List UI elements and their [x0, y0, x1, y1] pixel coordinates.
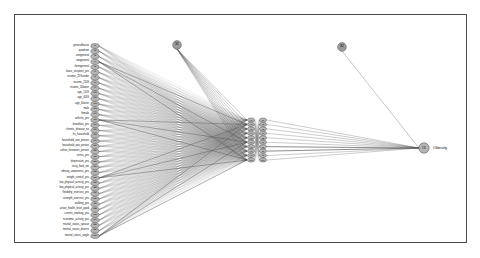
- input-node-i27[interactable]: I27: [91, 182, 99, 184]
- input-label-i5: threegeneral: [74, 66, 89, 69]
- input-node-i18[interactable]: I18: [91, 134, 99, 136]
- input-label-i22: stress_yes: [77, 155, 89, 158]
- input-node-i9[interactable]: I9: [91, 87, 99, 89]
- input-label-i28: low_physical_activity_yes: [59, 187, 89, 190]
- input-label-i26: weight_control_yes: [67, 177, 89, 180]
- output-label: Obesity: [433, 146, 447, 150]
- input-node-i17[interactable]: I17: [91, 129, 99, 131]
- input-node-i15[interactable]: I15: [91, 119, 99, 121]
- hidden2-node-j7[interactable]: J7: [259, 146, 266, 148]
- input-node-i14[interactable]: I14: [91, 113, 99, 115]
- input-node-i31[interactable]: I31: [91, 203, 99, 205]
- hidden1-node-h1[interactable]: H1: [247, 119, 254, 121]
- input-node-i11[interactable]: I11: [91, 97, 99, 99]
- input-node-i10[interactable]: I10: [91, 92, 99, 94]
- input-label-i21: cohort_threeover_person: [60, 150, 89, 153]
- input-label-i35: marital_status_spouse: [63, 224, 89, 227]
- input-node-i25[interactable]: I25: [91, 171, 99, 173]
- input-node-i32[interactable]: I32: [91, 208, 99, 210]
- input-node-i26[interactable]: I26: [91, 177, 99, 179]
- output-node[interactable]: O1: [418, 147, 430, 149]
- input-label-i36: marital_status_divorce: [63, 229, 89, 232]
- input-label-i7: income_25%under: [67, 76, 89, 79]
- input-label-i11: age_4059: [77, 97, 89, 100]
- input-node-i21[interactable]: I21: [91, 150, 99, 152]
- hidden1-node-h2[interactable]: H2: [247, 123, 254, 125]
- input-label-i23: depression_yes: [71, 161, 89, 164]
- input-label-i14: female: [81, 113, 89, 116]
- input-node-i30[interactable]: I30: [91, 198, 99, 200]
- input-node-i1[interactable]: I1: [91, 45, 99, 47]
- input-label-i16: breakfast_yes: [73, 124, 89, 127]
- input-label-i31: walking_yes: [75, 203, 89, 206]
- input-node-i22[interactable]: I22: [91, 156, 99, 158]
- input-label-i20: household_two_person: [62, 145, 89, 148]
- hidden2-node-j5[interactable]: J5: [259, 137, 266, 139]
- hidden1-node-h7[interactable]: H7: [247, 146, 254, 148]
- input-node-i20[interactable]: I20: [91, 145, 99, 147]
- input-node-i7[interactable]: I7: [91, 76, 99, 78]
- hidden1-node-h10[interactable]: H10: [247, 159, 254, 161]
- input-label-i8: income_2549: [73, 82, 89, 85]
- hidden2-node-j1[interactable]: J1: [259, 119, 266, 121]
- input-label-i3: onegeneral: [76, 55, 89, 58]
- hidden2-node-j8[interactable]: J8: [259, 150, 266, 152]
- input-node-i2[interactable]: I2: [91, 50, 99, 52]
- input-node-i8[interactable]: I8: [91, 82, 99, 84]
- input-label-i18: hs_household: [73, 134, 89, 137]
- input-node-i13[interactable]: I13: [91, 108, 99, 110]
- hidden1-node-h4[interactable]: H4: [247, 132, 254, 134]
- input-node-i29[interactable]: I29: [91, 192, 99, 194]
- input-label-i37: marital_status_single: [65, 235, 89, 238]
- input-node-i19[interactable]: I19: [91, 140, 99, 142]
- input-label-i15: arthritis_yes: [75, 118, 89, 121]
- input-label-i34: economic_activity_yes: [63, 219, 89, 222]
- input-node-i33[interactable]: I33: [91, 214, 99, 216]
- bias-node-2[interactable]: B2: [337, 46, 347, 48]
- input-label-i1: generalhouse: [73, 45, 89, 48]
- input-node-i37[interactable]: I37: [91, 235, 99, 237]
- input-node-i35[interactable]: I35: [91, 224, 99, 226]
- input-label-i4: twogeneral: [76, 60, 89, 63]
- hidden1-node-h5[interactable]: H5: [247, 137, 254, 139]
- input-node-i5[interactable]: I5: [91, 66, 99, 68]
- input-node-i12[interactable]: I12: [91, 103, 99, 105]
- hidden2-node-j9[interactable]: J9: [259, 154, 266, 156]
- input-label-i9: income_50lower: [70, 87, 89, 90]
- input-node-i23[interactable]: I23: [91, 161, 99, 163]
- bias-node-1[interactable]: B1: [172, 44, 182, 46]
- input-node-i6[interactable]: I6: [91, 71, 99, 73]
- figure-root: generalhousequadrantonegeneraltwogeneral…: [0, 0, 480, 258]
- hidden1-node-h9[interactable]: H9: [247, 154, 254, 156]
- input-label-i2: quadrant: [79, 50, 89, 53]
- hidden1-node-h8[interactable]: H8: [247, 150, 254, 152]
- input-node-i16[interactable]: I16: [91, 124, 99, 126]
- hidden2-node-j3[interactable]: J3: [259, 128, 266, 130]
- input-label-i10: age_1529: [77, 92, 89, 95]
- hidden1-node-h6[interactable]: H6: [247, 141, 254, 143]
- input-label-i12: age_60over: [75, 103, 89, 106]
- input-node-i3[interactable]: I3: [91, 55, 99, 57]
- input-label-i6: basic_recipient_yes: [66, 71, 89, 74]
- input-label-i25: obesity_awareness_yes: [61, 171, 89, 174]
- input-label-i27: low_physical_activity_yes: [59, 182, 89, 185]
- input-label-i17: chronic_disease_no: [66, 129, 89, 132]
- input-label-i30: strength_exercise_yes: [63, 198, 89, 201]
- input-node-i36[interactable]: I36: [91, 229, 99, 231]
- input-label-i32: active_health_level_good: [60, 208, 89, 211]
- input-label-i19: household_one_person: [62, 140, 89, 143]
- hidden1-node-h3[interactable]: H3: [247, 128, 254, 130]
- hidden2-node-j2[interactable]: J2: [259, 123, 266, 125]
- input-label-i29: flexibility_exercise_yes: [63, 192, 89, 195]
- input-label-i33: current_smoking_yes: [64, 213, 89, 216]
- input-node-i24[interactable]: I24: [91, 166, 99, 168]
- input-label-i24: tasty_food_eat: [72, 166, 89, 169]
- input-node-i28[interactable]: I28: [91, 187, 99, 189]
- input-label-i13: male: [83, 108, 89, 111]
- input-node-i4[interactable]: I4: [91, 61, 99, 63]
- hidden2-node-j6[interactable]: J6: [259, 141, 266, 143]
- hidden2-node-j10[interactable]: J10: [259, 159, 266, 161]
- hidden2-node-j4[interactable]: J4: [259, 132, 266, 134]
- input-node-i34[interactable]: I34: [91, 219, 99, 221]
